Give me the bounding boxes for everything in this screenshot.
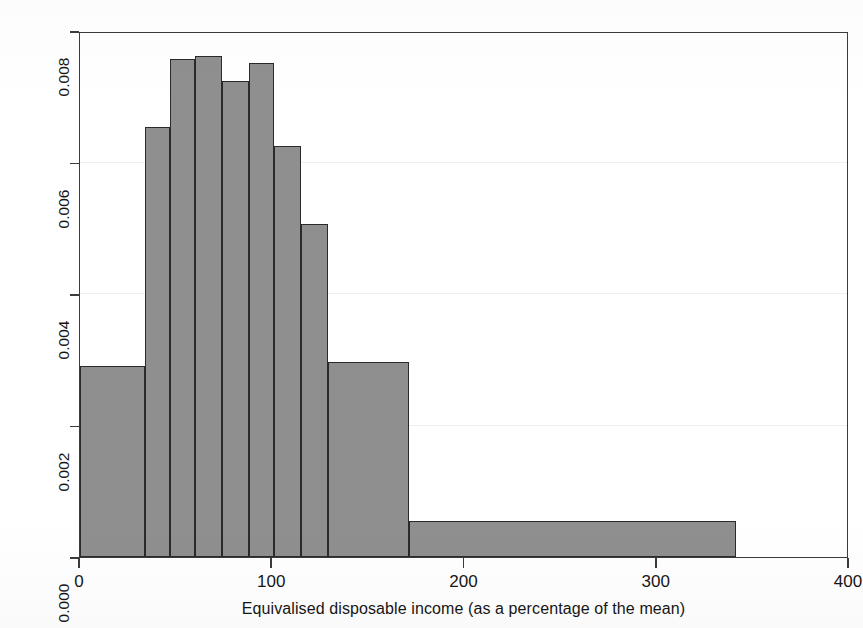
histogram-bar [409, 521, 736, 557]
histogram-bar [170, 59, 195, 557]
x-axis-tick [270, 558, 272, 568]
histogram-figure: Density 0.0000.0020.0040.0060.008 010020… [0, 0, 863, 628]
x-axis-tick-label: 300 [621, 572, 691, 592]
x-axis-tick-label: 400 [813, 572, 863, 592]
x-axis-title: Equivalised disposable income (as a perc… [79, 600, 848, 618]
x-axis-tick [847, 558, 849, 568]
y-axis-tick-label: 0.006 [55, 164, 73, 254]
histogram-bar [328, 362, 409, 557]
y-axis-tick-label: 0.004 [55, 295, 73, 385]
y-axis-title: Density [0, 0, 34, 628]
x-axis-tick-label: 200 [429, 572, 499, 592]
histogram-bar [301, 224, 328, 557]
plot-area [79, 32, 848, 558]
histogram-bar [222, 81, 249, 557]
x-axis-tick [463, 558, 465, 568]
x-axis-tick-label: 0 [44, 572, 114, 592]
histogram-bar [249, 63, 274, 557]
histogram-bar [80, 366, 145, 557]
y-axis-tick-label: 0.008 [55, 32, 73, 122]
x-axis-tick [78, 558, 80, 568]
y-axis-tick-label: 0.002 [55, 427, 73, 517]
y-axis-tick-label: 0.000 [55, 558, 73, 628]
histogram-bar [195, 56, 222, 557]
x-axis-tick [655, 558, 657, 568]
x-axis-tick-label: 100 [236, 572, 306, 592]
histogram-bar [274, 146, 301, 557]
histogram-bar [145, 127, 170, 557]
